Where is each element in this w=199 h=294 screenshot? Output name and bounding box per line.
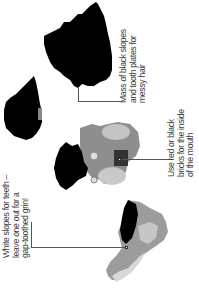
- mouth-callout-marker: [118, 158, 121, 161]
- hair-large-piece: [44, 2, 112, 88]
- hair-leader-line-h: [78, 101, 120, 102]
- hair-leader-line: [78, 88, 79, 102]
- teeth-leader-line-v: [31, 222, 32, 248]
- callout-mouth: Use red or black bricks for the inside o…: [167, 109, 196, 177]
- callout-teeth-line-3: gap-toothed grin!: [21, 175, 31, 258]
- callout-mouth-line-3: of the mouth: [186, 109, 196, 177]
- teeth-leader-line-h: [31, 247, 127, 248]
- hair-small-piece: [4, 76, 42, 140]
- callout-hair: Mass of black slopes and tooth plates fo…: [119, 29, 148, 103]
- teeth-callout-marker: [125, 246, 128, 249]
- callout-hair-line-3: messy hair: [138, 29, 148, 103]
- callout-teeth: White slopes for teeth – leave one out f…: [2, 175, 31, 258]
- mouth-leader-line: [120, 159, 172, 160]
- teeth-jaw-piece: [106, 200, 168, 282]
- mouth-assembly: [54, 122, 140, 190]
